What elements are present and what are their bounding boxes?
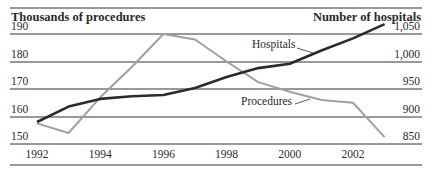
left-tick-label: 150 [11, 130, 29, 142]
left-tick-label: 160 [11, 103, 29, 115]
left-tick-label: 180 [11, 48, 29, 60]
hospitals-line [37, 24, 385, 122]
right-tick-label: 900 [403, 103, 421, 115]
procedures-line [37, 34, 385, 137]
x-tick-label: 1998 [215, 148, 238, 160]
gridlines [10, 34, 422, 144]
x-tick-label: 2000 [278, 148, 301, 160]
right-tick-label: 1,050 [394, 20, 420, 33]
right-axis-ticks: 1,0501,000950900850 [394, 20, 420, 142]
hospitals-leader [297, 48, 313, 53]
right-tick-label: 1,000 [394, 48, 420, 61]
procedures-leader [295, 99, 310, 104]
left-axis-title: Thousands of procedures [11, 10, 145, 24]
right-tick-label: 850 [403, 130, 421, 142]
x-tick-label: 1992 [26, 148, 49, 160]
x-tick-label: 1994 [89, 148, 112, 160]
procedures-label: Procedures [241, 95, 293, 107]
x-axis-ticks: 199219941996199820002002 [26, 148, 365, 160]
left-axis-ticks: 190180170160150 [11, 20, 29, 142]
x-tick-label: 2002 [342, 148, 365, 160]
dual-axis-line-chart: Thousands of procedures Number of hospit… [0, 0, 439, 172]
x-tick-label: 1996 [152, 148, 175, 160]
hospitals-label: Hospitals [252, 38, 296, 51]
left-tick-label: 190 [11, 20, 29, 32]
right-tick-label: 950 [403, 75, 421, 87]
left-tick-label: 170 [11, 75, 29, 87]
